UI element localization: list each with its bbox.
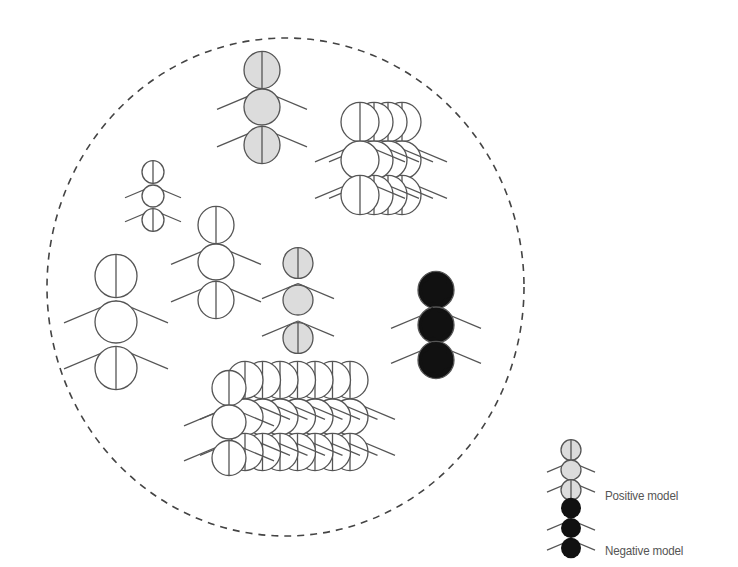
ant-segment [341,141,379,179]
neutral-stack-top-right [315,102,447,214]
ant-model-diagram [0,0,738,567]
legend-icons [547,440,595,559]
neutral-ant-small [125,161,181,232]
neutral-ant-large [64,254,168,389]
legend-positive-model-icon [547,440,595,501]
negative-ant [391,271,481,378]
ant-segment [142,185,164,207]
ant-segment [212,405,246,439]
legend-label-positive: Positive model [605,488,678,503]
ant-segment [95,301,137,343]
ant-segment [198,244,234,280]
positive-ant-small [262,248,334,354]
ant-segment [283,285,313,315]
legend-negative-model-icon [547,498,595,559]
neutral-ant-medium [171,206,261,318]
ant-figures [64,51,481,389]
legend-label-negative: Negative model [605,543,683,558]
ant-segment [244,89,280,125]
ant-segment [561,460,581,480]
neutral-stack-bottom [184,361,395,475]
positive-ant-top [217,51,307,163]
